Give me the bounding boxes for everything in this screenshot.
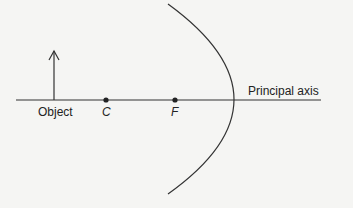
center-of-curvature-point	[103, 97, 108, 102]
object-label: Object	[38, 105, 73, 119]
diagram-canvas: Object C F Principal axis	[0, 0, 353, 208]
focus-label: F	[171, 105, 179, 119]
center-label: C	[102, 105, 111, 119]
principal-axis-label: Principal axis	[248, 84, 319, 98]
concave-mirror	[168, 4, 234, 194]
focal-point	[172, 97, 177, 102]
object-arrow	[49, 51, 59, 100]
